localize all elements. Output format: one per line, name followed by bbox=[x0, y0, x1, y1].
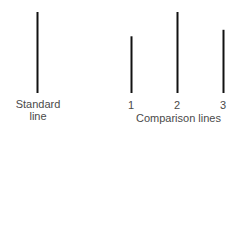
standard-line-label: Standard line bbox=[8, 98, 68, 122]
comparison-lines-caption: Comparison lines bbox=[136, 112, 220, 124]
comparison-line-2-label: 2 bbox=[170, 99, 184, 111]
standard-label-text-2: line bbox=[8, 110, 68, 122]
comparison-line-1-label: 1 bbox=[124, 99, 138, 111]
standard-label-text-1: Standard bbox=[8, 98, 68, 110]
comparison-line-3-label: 3 bbox=[216, 99, 230, 111]
